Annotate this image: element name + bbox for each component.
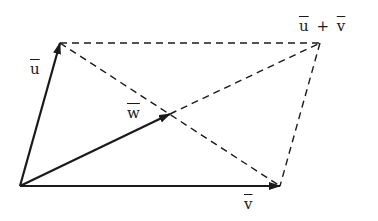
label-w: w	[127, 106, 140, 121]
vector-w-arrow	[20, 114, 170, 186]
label-sum-plus: +	[316, 17, 329, 35]
vector-u-arrow	[20, 43, 60, 186]
label-sum-v: v	[337, 17, 345, 35]
label-sum-u: u	[299, 17, 309, 35]
label-u: u	[30, 62, 40, 77]
label-v: v	[244, 197, 252, 212]
dashed-diagonal-to-sum	[170, 43, 320, 114]
dashed-right-edge	[280, 43, 320, 186]
label-u-plus-v: u + v	[299, 19, 345, 34]
